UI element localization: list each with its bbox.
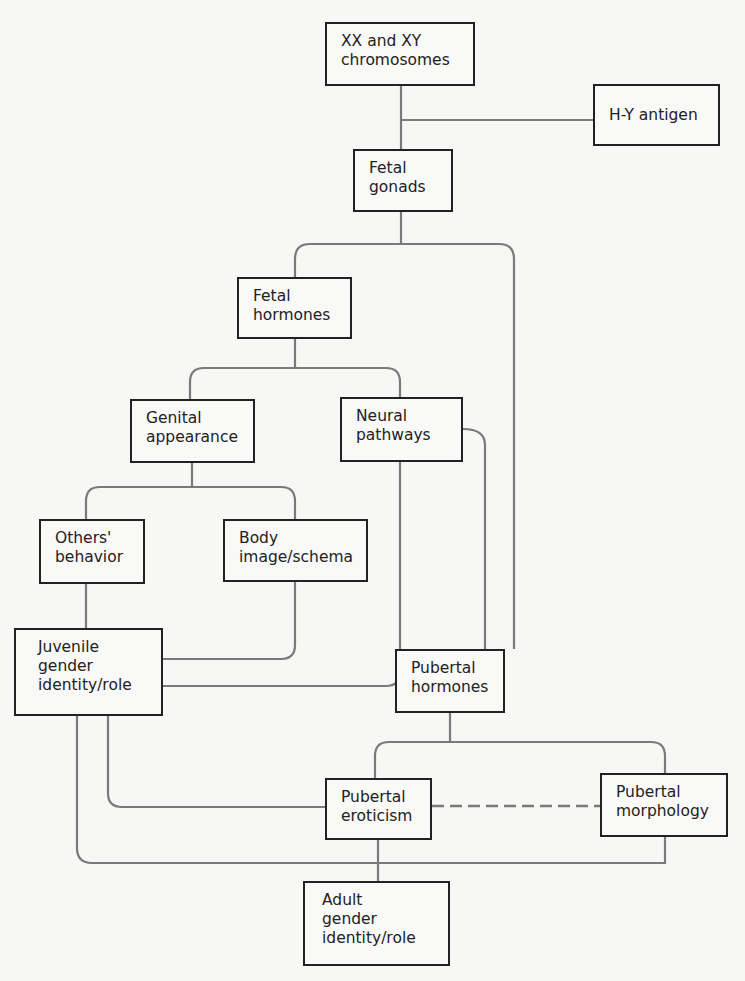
node-fetal-hormones: Fetal hormones (237, 277, 352, 339)
node-body-image: Body image/schema (223, 519, 368, 582)
node-genital-appearance: Genital appearance (130, 399, 255, 463)
node-chromosomes: XX and XY chromosomes (325, 22, 475, 86)
node-hy-antigen: H-Y antigen (593, 84, 720, 146)
node-pubertal-hormones: Pubertal hormones (395, 649, 505, 713)
node-neural-pathways: Neural pathways (340, 397, 463, 462)
node-adult-identity: Adult gender identity/role (303, 881, 450, 966)
node-others-behavior: Others' behavior (39, 519, 145, 584)
node-juvenile-identity: Juvenile gender identity/role (14, 628, 163, 716)
node-fetal-gonads: Fetal gonads (353, 149, 453, 212)
node-pubertal-morphology: Pubertal morphology (600, 773, 728, 837)
node-pubertal-eroticism: Pubertal eroticism (325, 778, 432, 840)
